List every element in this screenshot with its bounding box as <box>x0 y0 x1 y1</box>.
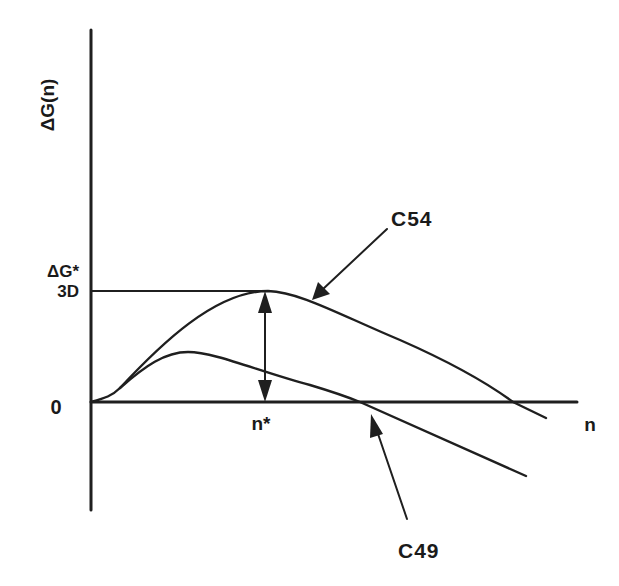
barrier-label-top: ΔG* <box>47 262 79 281</box>
arrow-head-down-icon <box>258 380 272 402</box>
critical-size-label: n* <box>252 413 272 434</box>
x-axis-label: n <box>584 414 596 435</box>
c54-label: C54 <box>391 207 433 230</box>
c49-pointer-line <box>376 428 407 519</box>
barrier-label-bottom: 3D <box>57 282 79 301</box>
zero-label: 0 <box>50 396 61 418</box>
c54-pointer-line <box>322 229 387 290</box>
curve-c54 <box>91 291 546 418</box>
c49-label: C49 <box>398 539 440 562</box>
arrow-head-up-icon <box>258 291 272 313</box>
c49-pointer-arrowhead-icon <box>370 414 383 438</box>
y-axis-label: ΔG(n) <box>37 79 58 132</box>
free-energy-diagram: ΔG(n) ΔG* 3D 0 n* n C54 C49 <box>0 0 619 586</box>
